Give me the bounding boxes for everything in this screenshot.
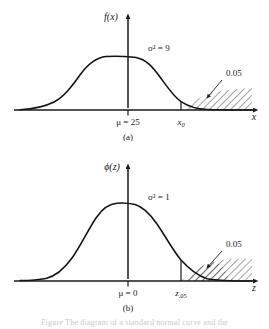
mean-label-b: μ = 0: [119, 288, 138, 298]
threshold-label-a: x0: [176, 117, 185, 128]
threshold-label-b-sub: .05: [179, 292, 187, 299]
area-label-a: 0.05: [226, 68, 242, 78]
y-axis-label-a: f(x): [104, 11, 119, 23]
area-label-b: 0.05: [226, 239, 242, 249]
mean-label-a: μ = 25: [116, 117, 140, 127]
x-axis-label-b: z: [251, 282, 256, 293]
x-axis-label-a: x: [251, 111, 257, 122]
figure-root: f(x) x σ² = 9 μ = 25 x0 0.05 (a): [0, 0, 269, 329]
bottom-caption-strip: Figure The diagram of a standard normal …: [0, 318, 269, 329]
threshold-label-a-sub: 0: [181, 121, 185, 128]
threshold-label-b: z.05: [174, 288, 187, 299]
chart-panel-a: f(x) x σ² = 9 μ = 25 x0 0.05 (a): [0, 0, 269, 150]
chart-panel-b: ϕ(z) z σ² = 1 μ = 0 z.05 0.05 (b): [0, 150, 269, 329]
variance-label-b: σ² = 1: [148, 192, 170, 202]
y-axis-label-b: ϕ(z): [104, 161, 120, 173]
panel-caption-a: (a): [123, 132, 133, 142]
variance-label-a: σ² = 9: [148, 43, 170, 53]
panel-caption-b: (b): [123, 303, 134, 313]
